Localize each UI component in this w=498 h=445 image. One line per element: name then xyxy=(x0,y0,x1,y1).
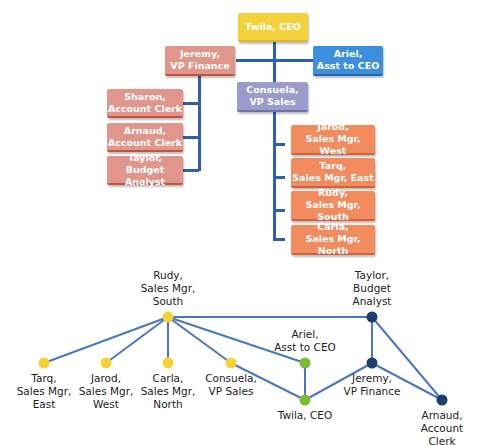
node-arnaud xyxy=(437,395,448,406)
node-label-carla: Carla, Sales Mgr, North xyxy=(141,372,196,411)
node-label-consuela: Consuela, VP Sales xyxy=(205,372,257,398)
node-label-twila: Twila, CEO xyxy=(278,409,332,422)
node-label-rudy: Rudy, Sales Mgr, South xyxy=(141,269,196,308)
node-label-jeremy: Jeremy, VP Finance xyxy=(343,372,400,398)
node-carla xyxy=(163,358,174,369)
edge-rudy-jarod xyxy=(106,317,168,363)
node-label-arnaud: Arnaud, Account Clerk xyxy=(414,409,470,445)
node-rudy xyxy=(163,312,174,323)
node-consuela xyxy=(226,358,237,369)
edge-rudy-tarq xyxy=(44,317,168,363)
node-tarq xyxy=(39,358,50,369)
node-taylor xyxy=(367,312,378,323)
node-label-ariel: Ariel, Asst to CEO xyxy=(274,328,336,354)
node-label-jarod: Jarod, Sales Mgr, West xyxy=(79,372,134,411)
node-label-taylor: Taylor, Budget Analyst xyxy=(353,269,392,308)
node-ariel xyxy=(300,358,311,369)
node-twila xyxy=(300,395,311,406)
node-label-tarq: Tarq, Sales Mgr, East xyxy=(17,372,72,411)
edge-rudy-consuela xyxy=(168,317,231,363)
node-jarod xyxy=(101,358,112,369)
node-jeremy xyxy=(367,358,378,369)
